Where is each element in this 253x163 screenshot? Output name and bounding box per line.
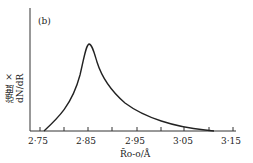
x-tick-label-1: 2·85 xyxy=(76,136,96,146)
x-axis-label: R̄o-o/Å xyxy=(120,149,150,159)
panel-label: (b) xyxy=(38,16,51,26)
x-tick-label-4: 3·15 xyxy=(221,136,241,146)
x-tick-label-0: 2·75 xyxy=(28,136,48,146)
y-axis-label: 強度 × dN/dR xyxy=(2,58,22,118)
x-tick-label-2: 2·95 xyxy=(125,136,145,146)
distribution-curve xyxy=(44,44,214,131)
x-tick-label-3: 3·05 xyxy=(173,136,193,146)
